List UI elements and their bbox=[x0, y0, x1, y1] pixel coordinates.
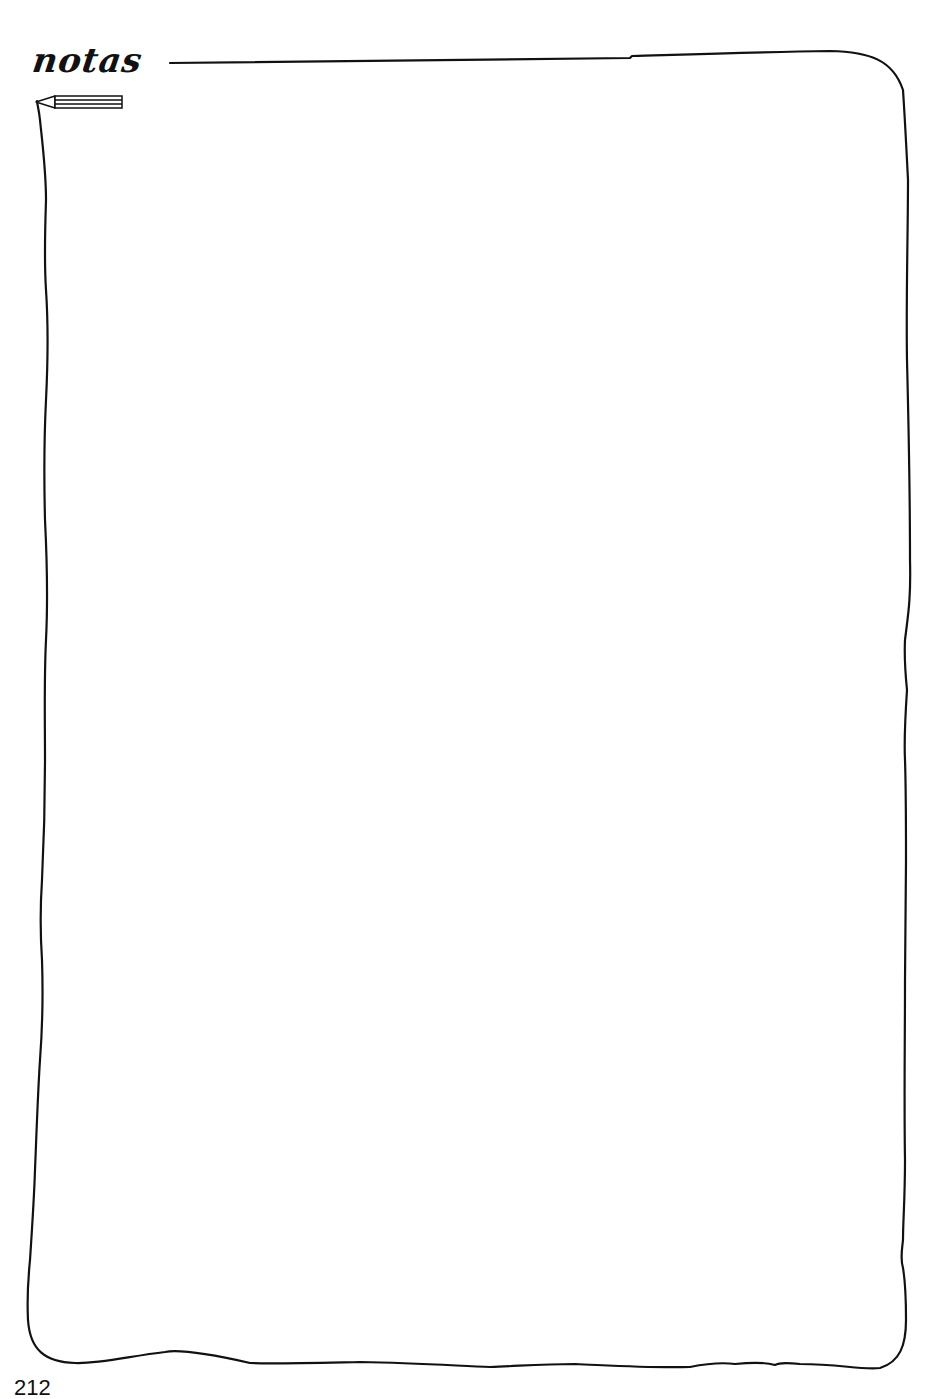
page-number: 212 bbox=[14, 1376, 51, 1399]
notes-writing-area bbox=[50, 100, 900, 1350]
